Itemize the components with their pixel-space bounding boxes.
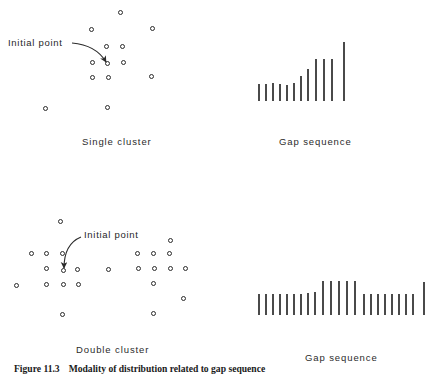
caption-gap-sequence-bottom: Gap sequence: [305, 352, 378, 363]
scatter-point: [90, 60, 95, 65]
gap-bar: [314, 292, 316, 315]
gap-bar: [293, 294, 295, 315]
gap-bar: [307, 69, 309, 101]
gap-bar: [272, 294, 274, 315]
gap-bar: [354, 281, 356, 315]
caption-gap-sequence-top: Gap sequence: [279, 136, 352, 147]
scatter-point: [105, 61, 110, 66]
scatter-point: [29, 251, 34, 256]
gap-bar: [370, 294, 372, 315]
gap-bar: [286, 294, 288, 315]
scatter-point: [136, 266, 141, 271]
gap-bar: [300, 294, 302, 315]
initial-point-arrow-bottom: [0, 0, 441, 376]
scatter-point: [168, 266, 173, 271]
gap-bar: [322, 281, 324, 315]
scatter-point: [181, 296, 186, 301]
initial-point-label-top: Initial point: [8, 37, 63, 48]
scatter-point: [90, 75, 95, 80]
scatter-point: [121, 60, 126, 65]
gap-bar: [405, 294, 407, 315]
scatter-point: [151, 311, 156, 316]
scatter-point: [14, 283, 19, 288]
scatter-point: [76, 282, 81, 287]
caption-single-cluster: Single cluster: [82, 136, 152, 147]
scatter-point: [44, 266, 49, 271]
scatter-point: [168, 238, 173, 243]
gap-bar: [286, 85, 288, 101]
gap-bar: [346, 281, 348, 315]
gap-bar: [272, 83, 274, 101]
scatter-point: [183, 266, 188, 271]
scatter-point: [105, 105, 110, 110]
scatter-point: [61, 282, 66, 287]
gap-bar: [398, 294, 400, 315]
scatter-point: [44, 251, 49, 256]
gap-bar: [279, 294, 281, 315]
caption-double-cluster: Double cluster: [76, 344, 149, 355]
scatter-point: [75, 267, 80, 272]
scatter-point: [151, 281, 156, 286]
scatter-point: [61, 268, 66, 273]
gap-bar: [279, 84, 281, 101]
gap-bar: [258, 84, 260, 101]
scatter-point: [120, 44, 125, 49]
initial-point-label-bottom: Initial point: [84, 229, 139, 240]
gap-bar: [412, 294, 414, 315]
gap-bar: [265, 84, 267, 101]
gap-bar: [300, 76, 302, 101]
gap-bar: [330, 281, 332, 315]
gap-bar: [384, 294, 386, 315]
gap-bar: [258, 294, 260, 315]
figure-caption-number: Figure 11.3: [14, 363, 60, 374]
scatter-point: [43, 106, 48, 111]
scatter-point: [135, 251, 140, 256]
scatter-point: [44, 282, 49, 287]
gap-bar: [423, 282, 425, 315]
gap-bar: [363, 294, 365, 315]
gap-bar: [331, 59, 333, 101]
gap-bar: [343, 42, 345, 101]
scatter-point: [151, 251, 156, 256]
scatter-point: [89, 27, 94, 32]
figure-container: Initial point Single cluster Gap sequenc…: [0, 0, 441, 376]
scatter-point: [106, 267, 111, 272]
gap-bar: [293, 83, 295, 101]
scatter-point: [106, 75, 111, 80]
scatter-point: [60, 312, 65, 317]
scatter-point: [149, 74, 154, 79]
scatter-point: [60, 251, 65, 256]
figure-caption: Figure 11.3Modality of distribution rela…: [14, 363, 265, 374]
gap-bar: [391, 294, 393, 315]
gap-bar: [377, 294, 379, 315]
figure-caption-text: Modality of distribution related to gap …: [69, 363, 266, 374]
gap-bar: [323, 59, 325, 101]
gap-bar: [307, 293, 309, 315]
scatter-point: [167, 251, 172, 256]
scatter-point: [118, 10, 123, 15]
gap-bar: [315, 59, 317, 101]
gap-bar: [338, 281, 340, 315]
scatter-point: [58, 219, 63, 224]
gap-bar: [265, 294, 267, 315]
initial-point-arrow-top: [0, 0, 441, 376]
scatter-point: [104, 44, 109, 49]
scatter-point: [152, 266, 157, 271]
scatter-point: [150, 26, 155, 31]
